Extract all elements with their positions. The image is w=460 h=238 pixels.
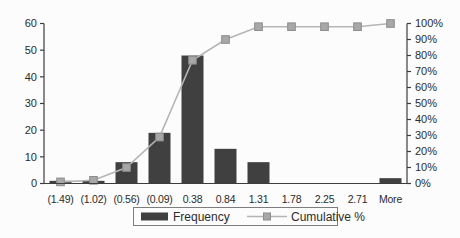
right-axis-tick-label: 90% [415, 33, 437, 45]
x-axis-category-label: (1.02) [80, 193, 106, 205]
cumulative-marker [189, 57, 197, 65]
right-axis-tick-label: 70% [415, 65, 437, 77]
right-axis-tick-label: 50% [415, 97, 437, 109]
frequency-bars [50, 56, 402, 184]
left-axis-tick-label: 20 [25, 124, 37, 136]
legend-frequency-swatch [141, 213, 168, 221]
right-axis-tick-label: 30% [415, 129, 437, 141]
right-axis-tick-label: 40% [415, 113, 437, 125]
x-axis-category-label: 2.71 [348, 193, 368, 205]
left-axis-tick-label: 0 [31, 177, 37, 189]
right-axis-tick-label: 80% [415, 49, 437, 61]
cumulative-marker [387, 20, 395, 28]
x-axis-category-label: (0.56) [113, 193, 139, 205]
x-axis-category-label: 2.25 [315, 193, 335, 205]
frequency-bar [182, 56, 204, 184]
x-axis-category-label: 1.31 [249, 193, 269, 205]
left-axis-tick-label: 10 [25, 151, 37, 163]
legend-frequency-label: Frequency [173, 210, 230, 224]
right-axis-tick-label: 60% [415, 81, 437, 93]
right-axis-tick-label: 10% [415, 161, 437, 173]
cumulative-marker [123, 164, 131, 172]
x-axis-category-label: 0.84 [216, 193, 236, 205]
chart-screenshot: 01020304050600%10%20%30%40%50%60%70%80%9… [0, 0, 460, 238]
cumulative-marker [321, 23, 329, 31]
legend-cumulative-marker-swatch [264, 213, 271, 220]
x-axis-category-label: 0.38 [183, 193, 203, 205]
left-axis-tick-label: 30 [25, 97, 37, 109]
frequency-bar [380, 178, 402, 183]
cumulative-marker [288, 23, 296, 31]
frequency-bar [215, 149, 237, 184]
left-axis-tick-label: 60 [25, 17, 37, 29]
cumulative-marker [222, 36, 230, 44]
pareto-chart: 01020304050600%10%20%30%40%50%60%70%80%9… [0, 0, 460, 238]
x-axis-category-label: (1.49) [47, 193, 73, 205]
cumulative-marker [354, 23, 362, 31]
x-axis-category-label: 1.78 [282, 193, 302, 205]
legend: FrequencyCumulative % [134, 208, 366, 226]
x-axis-category-label: More [379, 193, 402, 205]
left-axis-tick-label: 40 [25, 71, 37, 83]
right-axis-tick-label: 20% [415, 145, 437, 157]
right-axis-tick-label: 100% [415, 17, 443, 29]
cumulative-marker [156, 133, 164, 141]
cumulative-marker [57, 178, 65, 186]
right-axis-tick-label: 0% [415, 177, 431, 189]
legend-cumulative-label: Cumulative % [291, 210, 365, 224]
x-axis-category-label: (0.09) [146, 193, 172, 205]
cumulative-marker [255, 23, 263, 31]
left-axis-tick-label: 50 [25, 44, 37, 56]
frequency-bar [248, 162, 270, 183]
